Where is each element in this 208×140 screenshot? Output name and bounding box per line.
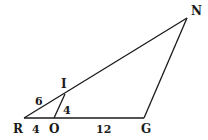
vertex-label-i: I [61, 77, 67, 91]
vertex-label-n: N [191, 4, 202, 18]
measure-ro: 4 [32, 123, 40, 136]
measure-io: 4 [63, 104, 71, 117]
segment-rn [24, 18, 187, 118]
vertex-label-o: O [49, 122, 59, 136]
vertex-label-r: R [13, 122, 24, 136]
measure-og: 12 [96, 123, 111, 136]
measure-ri: 6 [35, 95, 43, 108]
geometry-diagram: N I R O G 6 4 4 12 [0, 0, 208, 140]
segment-ng [144, 18, 187, 118]
vertex-label-g: G [141, 122, 151, 136]
